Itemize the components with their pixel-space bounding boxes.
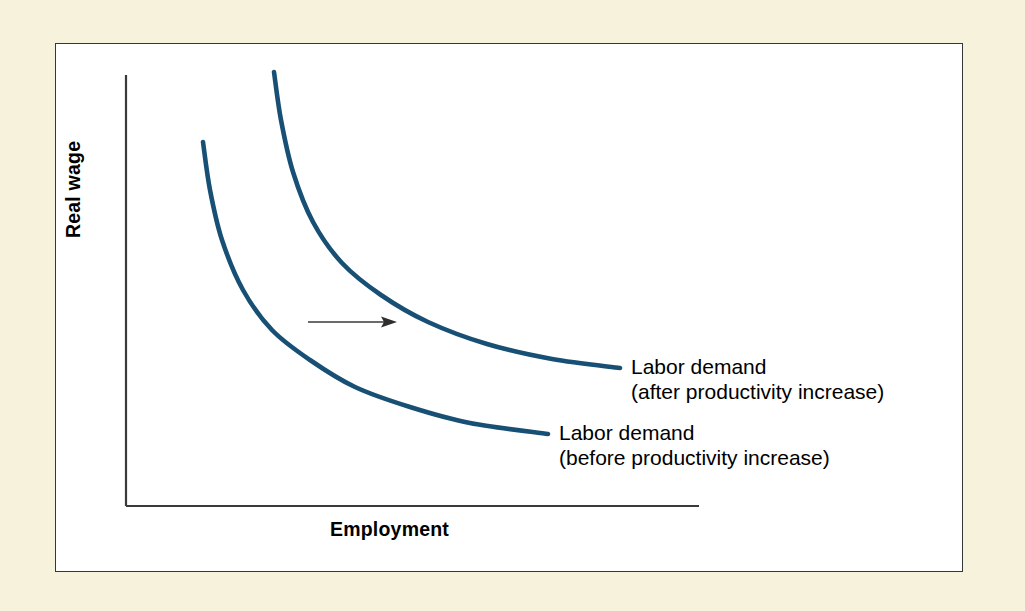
x-axis-title: Employment xyxy=(330,518,449,541)
series-label-before-productivity-increase: Labor demand (before productivity increa… xyxy=(559,420,830,470)
y-axis-title: Real wage xyxy=(62,141,85,238)
series-label-after-productivity-increase: Labor demand (after productivity increas… xyxy=(631,354,884,404)
figure-root: Real wage Employment Labor demand (after… xyxy=(0,0,1025,611)
series-label-before-line1: Labor demand xyxy=(559,420,830,445)
figure-panel xyxy=(55,43,963,572)
series-label-after-line2: (after productivity increase) xyxy=(631,379,884,404)
series-label-before-line2: (before productivity increase) xyxy=(559,445,830,470)
series-label-after-line1: Labor demand xyxy=(631,354,884,379)
